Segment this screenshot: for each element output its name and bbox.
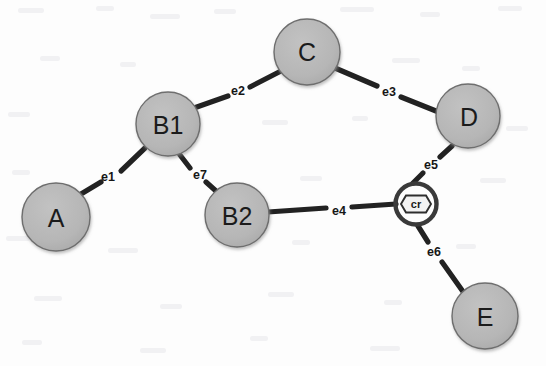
edge-e5-line-b (440, 146, 452, 157)
node-E-shape[interactable] (452, 283, 518, 349)
edge-e6-line (418, 226, 428, 242)
edge-e3-line-b (401, 97, 441, 113)
edge-e2-line (194, 96, 228, 108)
node-B1-shape[interactable] (136, 92, 200, 156)
edge-e6-line-b (442, 262, 464, 293)
node-cr-hexagon (401, 196, 431, 213)
node-A-shape[interactable] (22, 183, 90, 251)
node-cr-group[interactable] (396, 184, 437, 225)
edge-e7-line-b (206, 182, 216, 191)
edge-e1-line-b (121, 148, 145, 171)
graph-svg (0, 0, 546, 366)
edge-e4-line (268, 208, 326, 212)
edge-e4-line-b (352, 204, 396, 207)
node-C-shape[interactable] (274, 19, 340, 85)
edge-e1-line (81, 182, 101, 194)
edge-e3-line (335, 68, 377, 86)
node-B2-shape[interactable] (205, 183, 269, 247)
diagram-canvas: A B1 C D B2 E cr e1 e2 e3 e4 e5 e6 e7 (0, 0, 546, 366)
edge-e7-line (180, 155, 190, 168)
node-D-shape[interactable] (436, 84, 500, 148)
edge-e2-line-b (250, 71, 281, 87)
